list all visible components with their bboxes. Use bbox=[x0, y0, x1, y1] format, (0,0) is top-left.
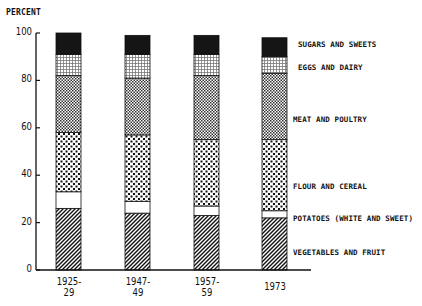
y-tick-label: 0 bbox=[12, 263, 32, 274]
bar-segment-flour-and-cereal bbox=[194, 140, 219, 206]
legend-vegetables-and-fruit: VEGETABLES AND FRUIT bbox=[293, 248, 385, 257]
legend-flour-and-cereal: FLOUR AND CEREAL bbox=[293, 182, 367, 191]
x-label-line2: 29 bbox=[52, 287, 86, 298]
bar-segment-potatoes-white-and-sweet bbox=[262, 211, 287, 218]
bar-segment-eggs-and-dairy bbox=[125, 54, 150, 78]
y-tick-label: 60 bbox=[12, 121, 32, 132]
x-label-line2: 49 bbox=[121, 287, 155, 298]
bar-segment-meat-and-poultry bbox=[125, 78, 150, 135]
bar-segment-flour-and-cereal bbox=[56, 133, 81, 192]
bar-segment-potatoes-white-and-sweet bbox=[125, 201, 150, 213]
y-tick-label: 100 bbox=[12, 26, 32, 37]
legend-meat-and-poultry: MEAT AND POULTRY bbox=[293, 115, 367, 124]
bar-segment-flour-and-cereal bbox=[125, 135, 150, 201]
x-category-label: 1947-49 bbox=[121, 276, 155, 298]
x-label-line1: 1925- bbox=[52, 276, 86, 287]
bar-segment-sugars-and-sweets bbox=[125, 35, 150, 54]
bar-segment-eggs-and-dairy bbox=[194, 54, 219, 75]
bar-segment-sugars-and-sweets bbox=[262, 38, 287, 57]
legend-eggs-and-dairy: EGGS AND DAIRY bbox=[298, 63, 363, 72]
bar-segment-potatoes-white-and-sweet bbox=[56, 192, 81, 209]
bar-segment-vegetables-and-fruit bbox=[125, 213, 150, 270]
x-label-line1: 1973 bbox=[258, 281, 292, 292]
bar-segment-potatoes-white-and-sweet bbox=[194, 206, 219, 215]
bar-4 bbox=[262, 38, 287, 270]
bar-3 bbox=[194, 35, 219, 270]
bar-segment-vegetables-and-fruit bbox=[56, 208, 81, 270]
legend-potatoes: POTATOES (WHITE AND SWEET) bbox=[293, 214, 413, 223]
bar-segment-meat-and-poultry bbox=[56, 76, 81, 133]
bar-2 bbox=[125, 35, 150, 270]
x-label-line1: 1957- bbox=[190, 276, 224, 287]
bars-group bbox=[56, 33, 287, 270]
x-category-label: 1957-59 bbox=[190, 276, 224, 298]
stacked-bar-chart: PERCENT 020406080100 1 bbox=[0, 0, 422, 306]
y-tick-label: 40 bbox=[12, 168, 32, 179]
y-tick-label: 80 bbox=[12, 73, 32, 84]
y-tick-label: 20 bbox=[12, 216, 32, 227]
bar-segment-flour-and-cereal bbox=[262, 140, 287, 211]
x-label-line1: 1947- bbox=[121, 276, 155, 287]
bar-segment-eggs-and-dairy bbox=[262, 57, 287, 74]
bar-segment-vegetables-and-fruit bbox=[194, 215, 219, 270]
bar-segment-meat-and-poultry bbox=[194, 76, 219, 140]
bar-segment-sugars-and-sweets bbox=[56, 33, 81, 54]
x-category-label: 1973 bbox=[258, 281, 292, 292]
bar-segment-vegetables-and-fruit bbox=[262, 218, 287, 270]
bar-segment-eggs-and-dairy bbox=[56, 54, 81, 75]
x-category-label: 1925-29 bbox=[52, 276, 86, 298]
bar-1 bbox=[56, 33, 81, 270]
bar-segment-meat-and-poultry bbox=[262, 73, 287, 139]
bar-segment-sugars-and-sweets bbox=[194, 35, 219, 54]
legend-sugars-and-sweets: SUGARS AND SWEETS bbox=[298, 40, 376, 49]
x-label-line2: 59 bbox=[190, 287, 224, 298]
